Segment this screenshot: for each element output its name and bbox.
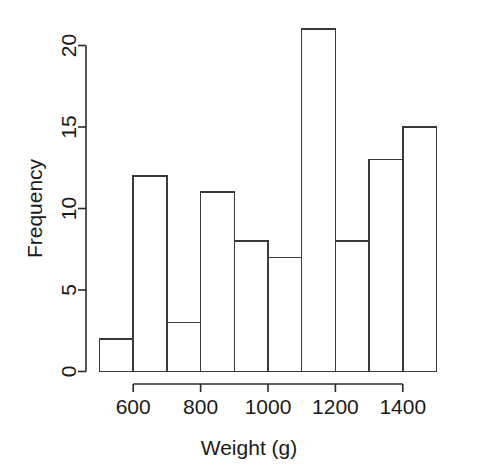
- y-axis-tick-label: 15: [57, 115, 80, 138]
- y-axis-tick-label: 20: [57, 34, 80, 57]
- histogram-bar: [403, 127, 437, 372]
- x-axis-tick-labels: 600800100012001400: [116, 395, 426, 418]
- histogram-bar: [335, 241, 369, 371]
- y-axis-tick-label: 10: [57, 197, 80, 220]
- histogram-bar: [268, 257, 302, 371]
- histogram-bar: [234, 241, 268, 371]
- x-axis-tick-label: 1000: [245, 395, 292, 418]
- y-axis-tick-labels: 05101520: [57, 34, 80, 378]
- x-axis-tick-label: 600: [116, 395, 151, 418]
- y-axis-title: Frequency: [23, 158, 46, 258]
- histogram-bar: [133, 176, 167, 372]
- histogram-plot-area: 05101520 600800100012001400 Frequency We…: [0, 0, 499, 467]
- histogram-bar: [369, 160, 403, 372]
- y-axis-tick-label: 0: [57, 366, 80, 378]
- histogram-bar: [100, 339, 134, 372]
- x-axis-tick-label: 1400: [379, 395, 426, 418]
- histogram-bar: [302, 29, 336, 371]
- x-axis-tick-label: 1200: [312, 395, 359, 418]
- y-axis: 05101520: [57, 34, 87, 378]
- histogram-bar: [167, 323, 201, 372]
- histogram-bars: [100, 29, 437, 371]
- x-axis: 600800100012001400: [116, 384, 426, 418]
- y-axis-tick-label: 5: [57, 284, 80, 296]
- histogram-bar: [201, 192, 235, 371]
- x-axis-tick-label: 800: [183, 395, 218, 418]
- histogram-figure: 05101520 600800100012001400 Frequency We…: [0, 0, 499, 467]
- x-axis-ticks: [133, 384, 403, 392]
- x-axis-title: Weight (g): [201, 436, 297, 459]
